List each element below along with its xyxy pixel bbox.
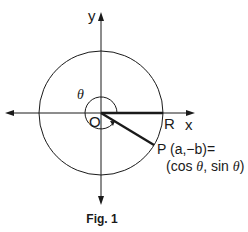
y-axis-label: y (88, 8, 96, 23)
point-R-label: R (164, 116, 175, 131)
point-P-trig: (cos θ, sin θ) (166, 159, 244, 174)
radius-OP (101, 113, 154, 145)
y-axis-bottom-arrow (98, 196, 104, 205)
origin-label: O (89, 114, 101, 129)
unit-circle-diagram (0, 0, 248, 232)
figure-caption: Fig. 1 (0, 212, 204, 226)
x-axis-left-arrow (5, 110, 14, 116)
y-axis-top-arrow (98, 12, 104, 21)
theta-label: θ (77, 88, 84, 102)
point-P-coords: P (a,−b)= (157, 141, 215, 157)
point-P-label: P (a,−b)= (157, 142, 215, 156)
x-axis-label: x (185, 117, 193, 132)
